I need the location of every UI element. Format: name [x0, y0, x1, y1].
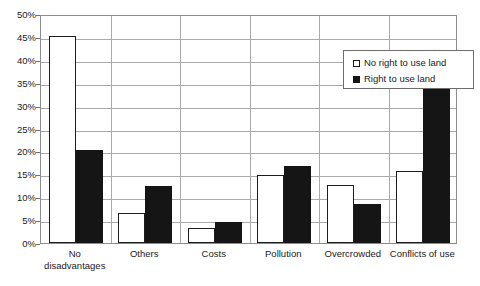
y-axis-tick-label: 40%: [0, 56, 36, 66]
bar[interactable]: [118, 213, 145, 243]
x-axis-category-label: Overcrowded: [318, 248, 388, 260]
y-axis-tick-label: 15%: [0, 170, 36, 180]
x-axis-category-label-line: Overcrowded: [318, 248, 388, 260]
y-axis-tick-label: 50%: [0, 10, 36, 20]
bar-chart: 50%45%40%35%30%25%20%15%10%5%0% No right…: [0, 0, 480, 286]
y-axis-tick-mark: [36, 244, 40, 245]
x-axis-category-label-line: disadvantages: [40, 260, 110, 272]
bar[interactable]: [327, 185, 354, 243]
bar[interactable]: [354, 204, 381, 243]
legend-item-label: No right to use land: [364, 58, 446, 68]
bar[interactable]: [145, 186, 172, 243]
bar[interactable]: [257, 175, 284, 243]
x-axis-category-label-line: Conflicts of use: [388, 248, 458, 260]
x-axis-category-label-line: Pollution: [249, 248, 319, 260]
bar[interactable]: [215, 222, 242, 243]
y-axis-tick-label: 10%: [0, 193, 36, 203]
bar[interactable]: [423, 82, 450, 243]
y-axis-tick-label: 25%: [0, 125, 36, 135]
bar[interactable]: [76, 150, 103, 243]
y-axis-tick-label: 5%: [0, 216, 36, 226]
x-axis-category-label: Costs: [179, 248, 249, 260]
x-axis-category-label-line: No: [40, 248, 110, 260]
y-axis-tick-label: 0%: [0, 239, 36, 249]
y-axis-tick-label: 30%: [0, 102, 36, 112]
y-axis: 50%45%40%35%30%25%20%15%10%5%0%: [0, 15, 36, 244]
bar-group: [180, 16, 250, 243]
open-square-icon: [353, 60, 360, 67]
x-axis-category-label: Conflicts of use: [388, 248, 458, 260]
y-axis-tick-label: 45%: [0, 33, 36, 43]
x-axis: NodisadvantagesOthersCostsPollutionOverc…: [40, 248, 457, 282]
legend: No right to use land Right to use land: [343, 50, 474, 89]
bar-group: [250, 16, 320, 243]
x-axis-category-label-line: Costs: [179, 248, 249, 260]
plot-area: No right to use land Right to use land: [40, 15, 457, 244]
x-axis-category-label: Others: [110, 248, 180, 260]
x-axis-category-label-line: Others: [110, 248, 180, 260]
filled-square-icon: [353, 76, 360, 83]
bar-group: [41, 16, 111, 243]
y-axis-tick-label: 35%: [0, 79, 36, 89]
clipped-title-ghost: [150, 0, 360, 5]
legend-item-no-right-to-use-land[interactable]: No right to use land: [353, 56, 473, 70]
legend-item-right-to-use-land[interactable]: Right to use land: [353, 72, 473, 86]
y-axis-tick-label: 20%: [0, 147, 36, 157]
bar-group: [111, 16, 181, 243]
legend-item-label: Right to use land: [364, 74, 435, 84]
bar[interactable]: [49, 36, 76, 243]
bar[interactable]: [284, 166, 311, 243]
bar[interactable]: [188, 228, 215, 243]
x-axis-category-label: Pollution: [249, 248, 319, 260]
x-axis-category-label: Nodisadvantages: [40, 248, 110, 271]
bar[interactable]: [396, 171, 423, 243]
